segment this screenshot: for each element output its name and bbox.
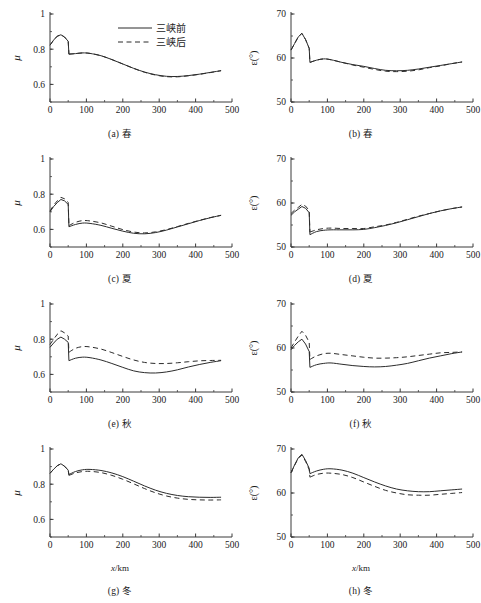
svg-text:70: 70	[277, 154, 287, 164]
chart-svg-d: 0100200300400500506070ε(°)	[241, 147, 481, 269]
svg-text:100: 100	[320, 540, 335, 550]
svg-text:500: 500	[466, 105, 481, 115]
svg-text:500: 500	[225, 250, 240, 260]
svg-text:μ: μ	[10, 490, 22, 497]
subplot-d: 0100200300400500506070ε(°) (d) 夏	[241, 147, 481, 292]
svg-text:50: 50	[277, 387, 287, 397]
svg-text:ε(°): ε(°)	[248, 196, 260, 211]
svg-text:70: 70	[277, 299, 287, 309]
plot-area-e: 01002003004005000.60.81μ	[0, 292, 240, 414]
subplot-h: 0100200300400500506070ε(°) x/km (h) 冬	[241, 437, 481, 603]
svg-text:100: 100	[79, 105, 94, 115]
svg-text:0: 0	[48, 395, 53, 405]
subplot-caption-h: (h) 冬	[241, 583, 481, 597]
subplot-caption-e: (e) 秋	[0, 416, 240, 430]
svg-text:200: 200	[116, 395, 131, 405]
svg-text:0.6: 0.6	[33, 80, 45, 90]
svg-text:300: 300	[152, 250, 167, 260]
svg-text:0.6: 0.6	[33, 515, 45, 525]
svg-text:50: 50	[277, 532, 287, 542]
subplot-b: 0100200300400500506070ε(°) (b) 春	[241, 2, 481, 147]
svg-text:ε(°): ε(°)	[248, 51, 260, 66]
svg-text:300: 300	[393, 540, 408, 550]
subplot-a: 01002003004005000.60.81μ三峡前三峡后 (a) 春	[0, 2, 240, 147]
plot-area-g: 01002003004005000.60.81μ	[0, 437, 240, 559]
plot-area-d: 0100200300400500506070ε(°)	[241, 147, 481, 269]
plot-area-f: 0100200300400500506070ε(°)	[241, 292, 481, 414]
plot-area-a: 01002003004005000.60.81μ三峡前三峡后	[0, 2, 240, 124]
svg-text:200: 200	[357, 105, 372, 115]
svg-text:200: 200	[116, 540, 131, 550]
svg-text:1: 1	[40, 299, 45, 309]
svg-text:0.6: 0.6	[33, 370, 45, 380]
svg-text:500: 500	[225, 540, 240, 550]
legend-label-after: 三峡后	[156, 36, 186, 48]
svg-text:1: 1	[40, 154, 45, 164]
plot-area-h: 0100200300400500506070ε(°)	[241, 437, 481, 559]
svg-text:60: 60	[277, 198, 287, 208]
svg-text:400: 400	[429, 540, 444, 550]
plot-area-b: 0100200300400500506070ε(°)	[241, 2, 481, 124]
svg-text:0: 0	[289, 395, 294, 405]
subplot-e: 01002003004005000.60.81μ (e) 秋	[0, 292, 240, 437]
subplot-f: 0100200300400500506070ε(°) (f) 秋	[241, 292, 481, 437]
svg-text:ε(°): ε(°)	[248, 486, 260, 501]
svg-text:300: 300	[152, 105, 167, 115]
subplot-caption-g: (g) 冬	[0, 583, 240, 597]
svg-text:200: 200	[116, 250, 131, 260]
chart-svg-a: 01002003004005000.60.81μ三峡前三峡后	[0, 2, 240, 124]
svg-text:0: 0	[48, 105, 53, 115]
svg-text:70: 70	[277, 9, 287, 19]
x-axis-label-h: x/km	[241, 563, 481, 573]
chart-svg-e: 01002003004005000.60.81μ	[0, 292, 240, 414]
svg-text:400: 400	[188, 105, 203, 115]
svg-text:500: 500	[466, 250, 481, 260]
subplot-g: 01002003004005000.60.81μ x/km (g) 冬	[0, 437, 240, 603]
svg-text:200: 200	[357, 395, 372, 405]
svg-text:100: 100	[320, 395, 335, 405]
svg-text:100: 100	[79, 540, 94, 550]
svg-text:500: 500	[466, 540, 481, 550]
svg-text:0.8: 0.8	[33, 335, 45, 345]
chart-svg-g: 01002003004005000.60.81μ	[0, 437, 240, 559]
legend-label-before: 三峡前	[156, 22, 186, 34]
svg-text:1: 1	[40, 9, 45, 19]
svg-text:300: 300	[152, 395, 167, 405]
svg-text:0: 0	[48, 540, 53, 550]
svg-text:400: 400	[188, 250, 203, 260]
svg-text:400: 400	[429, 105, 444, 115]
svg-text:400: 400	[429, 395, 444, 405]
subplot-caption-a: (a) 春	[0, 126, 240, 140]
svg-text:50: 50	[277, 242, 287, 252]
svg-text:100: 100	[79, 250, 94, 260]
svg-text:μ: μ	[10, 345, 22, 352]
svg-text:μ: μ	[10, 200, 22, 207]
subplot-caption-b: (b) 春	[241, 126, 481, 140]
svg-text:200: 200	[116, 105, 131, 115]
svg-text:1: 1	[40, 444, 45, 454]
subplot-caption-d: (d) 夏	[241, 271, 481, 285]
chart-svg-b: 0100200300400500506070ε(°)	[241, 2, 481, 124]
svg-text:0: 0	[289, 250, 294, 260]
svg-text:500: 500	[225, 395, 240, 405]
svg-text:100: 100	[79, 395, 94, 405]
svg-text:400: 400	[429, 250, 444, 260]
chart-svg-h: 0100200300400500506070ε(°)	[241, 437, 481, 559]
svg-text:300: 300	[152, 540, 167, 550]
svg-text:0.6: 0.6	[33, 225, 45, 235]
svg-text:400: 400	[188, 395, 203, 405]
svg-text:200: 200	[357, 250, 372, 260]
svg-text:60: 60	[277, 53, 287, 63]
svg-text:300: 300	[393, 395, 408, 405]
subplot-caption-f: (f) 秋	[241, 416, 481, 430]
svg-text:0: 0	[48, 250, 53, 260]
svg-text:400: 400	[188, 540, 203, 550]
svg-text:300: 300	[393, 105, 408, 115]
svg-text:500: 500	[466, 395, 481, 405]
svg-text:70: 70	[277, 444, 287, 454]
svg-text:0.8: 0.8	[33, 480, 45, 490]
svg-text:0: 0	[289, 540, 294, 550]
svg-text:100: 100	[320, 105, 335, 115]
svg-text:0.8: 0.8	[33, 190, 45, 200]
x-axis-unit: /km	[115, 563, 129, 573]
